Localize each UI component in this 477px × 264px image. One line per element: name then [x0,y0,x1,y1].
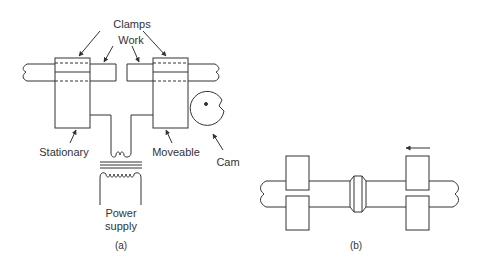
moveable-label: Moveable [152,146,200,158]
cam-label: Cam [216,156,239,168]
right-clamp-bottom [406,196,429,230]
clamps-label: Clamps [113,18,150,30]
figure-a [23,31,224,205]
caption-a: (a) [115,240,127,252]
left-clamp-top [286,156,309,190]
power-label-line2: supply [105,220,137,232]
right-clamp-top [406,156,429,190]
moveable-clamp [153,58,188,128]
leader-arrows [70,31,223,150]
stationary-label: Stationary [39,146,89,158]
power-label-line1: Power [105,207,136,219]
cam [190,91,224,125]
transformer [100,152,142,205]
figure-b [260,148,458,230]
transformer-leads [90,115,153,153]
left-clamp-bottom [286,196,309,230]
caption-b: (b) [350,240,362,252]
diagram-canvas [0,0,477,264]
work-label: Work [118,34,143,46]
stationary-clamp [55,58,90,128]
